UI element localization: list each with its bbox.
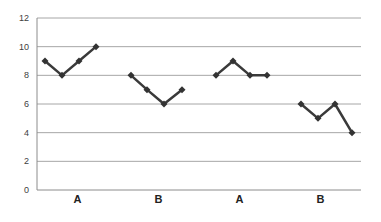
y-tick-label: 0 bbox=[24, 185, 29, 195]
x-category-label: A bbox=[74, 193, 82, 205]
y-axis: 024681012 bbox=[19, 13, 37, 195]
y-tick-label: 6 bbox=[24, 99, 29, 109]
series-a-0 bbox=[42, 43, 100, 79]
series-line bbox=[131, 75, 182, 104]
series-line bbox=[301, 104, 352, 133]
series-b-1 bbox=[128, 72, 186, 108]
x-category-label: B bbox=[155, 193, 163, 205]
x-axis: ABAB bbox=[37, 190, 361, 205]
y-tick-label: 8 bbox=[24, 70, 29, 80]
gridlines bbox=[37, 18, 361, 161]
line-chart: 024681012 ABAB bbox=[0, 0, 381, 222]
series-line bbox=[45, 47, 96, 76]
x-category-label: B bbox=[317, 193, 325, 205]
series-line bbox=[216, 61, 267, 75]
y-tick-label: 2 bbox=[24, 156, 29, 166]
y-tick-label: 10 bbox=[19, 42, 29, 52]
data-series bbox=[42, 43, 356, 136]
diamond-marker-icon bbox=[264, 72, 271, 79]
y-tick-label: 4 bbox=[24, 128, 29, 138]
y-tick-label: 12 bbox=[19, 13, 29, 23]
x-category-label: A bbox=[236, 193, 244, 205]
series-b-3 bbox=[298, 101, 356, 137]
